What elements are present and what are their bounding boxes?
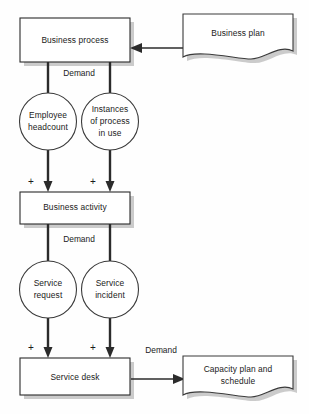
service-request-label-line1: Service	[34, 278, 63, 288]
instances-label-line1: Instances	[92, 104, 129, 114]
capacity-plan-label-line1: Capacity plan and	[204, 364, 273, 374]
plus-operator-incident: +	[90, 342, 96, 353]
demand-label-middle: Demand	[63, 234, 95, 244]
service-desk-label: Service desk	[50, 372, 100, 382]
employee-headcount-label-line1: Employee	[29, 110, 67, 120]
arrowhead-headcount-to-activity	[44, 181, 53, 192]
employee-headcount-label-line2: headcount	[28, 122, 69, 132]
diagram-canvas: Business process Business plan Employee …	[0, 0, 309, 414]
business-process-label: Business process	[41, 35, 108, 45]
business-plan-label: Business plan	[211, 28, 265, 38]
plus-operator-headcount: +	[28, 176, 34, 187]
business-activity-label: Business activity	[43, 202, 107, 212]
flowchart-diagram: Business process Business plan Employee …	[0, 0, 309, 414]
instances-label-line2: of process	[90, 116, 130, 126]
arrowhead-incident-to-desk	[106, 347, 115, 358]
demand-label-top: Demand	[63, 68, 95, 78]
demand-label-bottom: Demand	[145, 345, 177, 355]
plus-operator-instances: +	[90, 176, 96, 187]
arrowhead-instances-to-activity	[106, 181, 115, 192]
service-incident-label-line2: incident	[95, 290, 125, 300]
arrowhead-request-to-desk	[44, 347, 53, 358]
instances-label-line3: in use	[99, 128, 122, 138]
capacity-plan-label-line2: schedule	[221, 376, 256, 386]
plus-operator-request: +	[28, 342, 34, 353]
service-request-label-line2: request	[34, 290, 63, 300]
service-incident-label-line1: Service	[96, 278, 125, 288]
